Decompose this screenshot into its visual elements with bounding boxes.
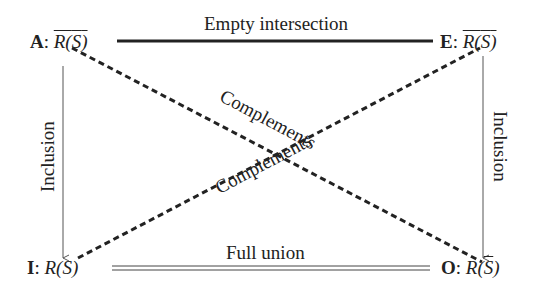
label-inclusion-right: Inclusion bbox=[491, 111, 510, 182]
node-o-expression: R(S) bbox=[466, 257, 500, 278]
node-a-letter: A bbox=[30, 31, 44, 52]
label-full-union: Full union bbox=[226, 243, 305, 262]
node-i: I: R(S) bbox=[27, 258, 78, 277]
node-i-expression: R(S) bbox=[44, 257, 78, 278]
node-o: O: R(S) bbox=[441, 258, 500, 277]
node-a-expression: R(S) bbox=[54, 31, 88, 52]
node-o-letter: O bbox=[441, 257, 456, 278]
node-a: A: R(S) bbox=[30, 32, 88, 51]
node-e-expression: R(S) bbox=[463, 31, 497, 52]
node-e-letter: E bbox=[440, 31, 453, 52]
label-empty-intersection: Empty intersection bbox=[204, 14, 348, 33]
node-e: E: R(S) bbox=[440, 32, 496, 51]
edge-full-union bbox=[112, 266, 430, 270]
square-of-opposition-diagram: A: R(S) E: R(S) I: R(S) O: R(S) Empty in… bbox=[0, 0, 552, 296]
label-inclusion-left: Inclusion bbox=[38, 121, 57, 192]
